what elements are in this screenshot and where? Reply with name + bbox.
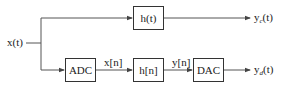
block-h-n-label: h[n] [139, 64, 157, 76]
signal-label-y-n: y[n] [172, 57, 190, 68]
block-adc: ADC [65, 58, 96, 82]
input-label-x-t: x(t) [7, 37, 23, 48]
block-dac-label: DAC [197, 64, 220, 76]
block-dac: DAC [193, 58, 224, 82]
block-h-t-label: h(t) [141, 12, 157, 24]
block-adc-label: ADC [69, 64, 92, 76]
block-h-t: h(t) [133, 6, 164, 30]
block-h-n: h[n] [133, 58, 164, 82]
signal-label-x-n: x[n] [104, 57, 122, 68]
output-label-yd: yd(t) [254, 64, 273, 77]
output-label-yc: yc(t) [254, 12, 273, 25]
